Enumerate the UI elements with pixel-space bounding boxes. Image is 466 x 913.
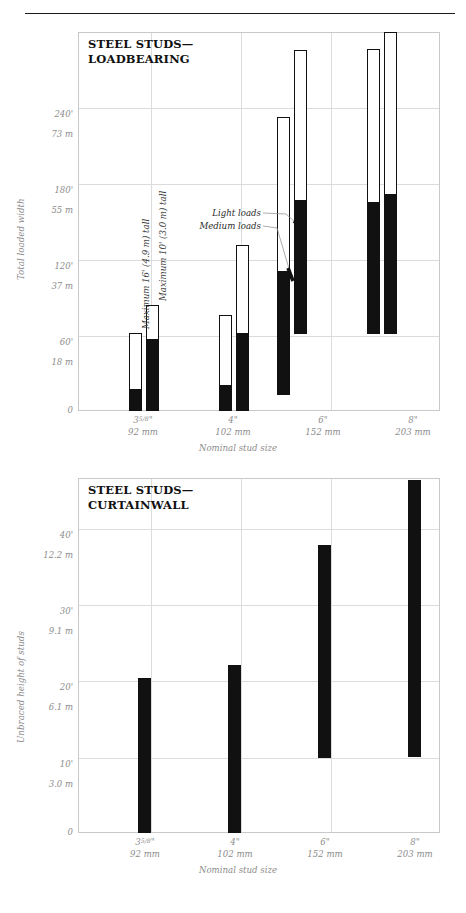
ytick-label-10ft: 10' 3.0 m	[20, 749, 73, 789]
gridline-40ft	[79, 529, 439, 530]
xtick-metric: 102 mm	[200, 848, 270, 860]
ytick-metric: 12.2 m	[43, 550, 73, 560]
plot-area-curtainwall	[78, 478, 440, 833]
xtick-curtainwall-1: 4" 102 mm	[200, 836, 270, 861]
bar-curtainwall-g3	[408, 480, 421, 757]
chart-title-curtainwall: STEEL STUDS— CURTAINWALL	[88, 483, 268, 512]
ytick-label-40ft: 40' 12.2 m	[20, 520, 73, 560]
xtick-curtainwall-3: 8" 203 mm	[380, 836, 450, 861]
vgridline-2	[241, 479, 242, 832]
vgridline-3	[331, 479, 332, 832]
ytick-metric: 9.1 m	[49, 626, 73, 636]
yaxis-title-curtainwall: Unbraced height of studs	[16, 631, 26, 743]
ytick-metric: 3.0 m	[49, 779, 73, 789]
ytick-imperial: 40'	[60, 530, 73, 540]
ytick-metric: 6.1 m	[49, 702, 73, 712]
ytick-label-30ft: 30' 9.1 m	[20, 596, 73, 636]
ytick-label-20ft: 20' 6.1 m	[20, 672, 73, 712]
xtick-curtainwall-0: 35/8" 92 mm	[110, 836, 180, 861]
bar-curtainwall-g2	[318, 545, 331, 758]
xtick-imperial: 4"	[200, 836, 270, 848]
xtick-metric: 152 mm	[290, 848, 360, 860]
gridline-10ft	[79, 758, 439, 759]
gridline-20ft	[79, 681, 439, 682]
xtick-imperial: 6"	[290, 836, 360, 848]
vgridline-1	[151, 479, 152, 832]
xtick-imperial: 35/8"	[110, 836, 180, 848]
bar-curtainwall-g0	[138, 678, 151, 833]
xaxis-title-curtainwall: Nominal stud size	[158, 865, 318, 875]
gridline-30ft	[79, 605, 439, 606]
xtick-curtainwall-2: 6" 152 mm	[290, 836, 360, 861]
chart-curtainwall: STEEL STUDS— CURTAINWALL 40' 12.2 m 30' …	[0, 0, 466, 913]
ytick-label-0: 0	[20, 827, 73, 837]
ytick-imperial: 20'	[60, 682, 73, 692]
xtick-imperial: 8"	[380, 836, 450, 848]
ytick-imperial: 10'	[60, 759, 73, 769]
bar-curtainwall-g1	[228, 665, 241, 833]
xtick-metric: 92 mm	[110, 848, 180, 860]
xtick-metric: 203 mm	[380, 848, 450, 860]
ytick-imperial: 30'	[60, 606, 73, 616]
